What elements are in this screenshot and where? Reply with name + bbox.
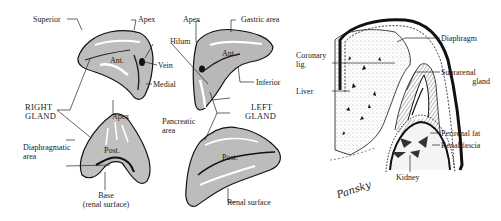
label-suprarenal-1: Suprarenal (441, 68, 476, 77)
label-right-gland-2: GLAND (25, 112, 56, 121)
label-kidney: Kidney (396, 173, 420, 182)
label-pancreatic-1: Pancreatic (162, 117, 195, 126)
label-medial: Medial (153, 80, 176, 89)
label-perirenal-fat: Perirenal fat (441, 129, 480, 138)
left-gland-posterior-drawing (186, 127, 281, 206)
label-suprarenal-2: gland (441, 77, 490, 86)
label-inferior: Inferior (256, 78, 280, 87)
label-left-apex: Apex (183, 15, 200, 24)
label-gastric-area: Gastric area (241, 15, 279, 24)
label-coronary-1: Coronary (296, 51, 326, 60)
label-diaphragmatic-1: Diaphragmatic (23, 143, 71, 152)
label-left-gland-2: GLAND (245, 112, 276, 121)
label-left-ant: Ant. (222, 49, 236, 58)
label-right-post: Post. (104, 146, 120, 155)
label-pancreatic-2: area (162, 126, 175, 135)
label-right-apex: Apex (138, 15, 155, 24)
label-base-1: Base (80, 191, 132, 200)
label-right-ant: Ant. (110, 56, 124, 65)
label-coronary-2: lig. (296, 60, 306, 69)
label-vein: Vein (158, 61, 173, 70)
label-right-post-apex: Apex (112, 112, 129, 121)
label-diaphragmatic-2: area (23, 152, 36, 161)
label-renal-fascia: Renal fascia (441, 141, 480, 150)
label-superior: Superior (33, 15, 61, 24)
label-renal-surface: Renal surface (227, 198, 271, 207)
label-left-post: Post. (222, 153, 238, 162)
left-gland-anterior-drawing (193, 30, 273, 111)
label-base-2: (renal surface) (75, 200, 137, 209)
label-hilum: Hilum (170, 37, 190, 46)
label-diaphragm: Diaphragm (441, 34, 477, 43)
label-liver: Liver (296, 87, 313, 96)
